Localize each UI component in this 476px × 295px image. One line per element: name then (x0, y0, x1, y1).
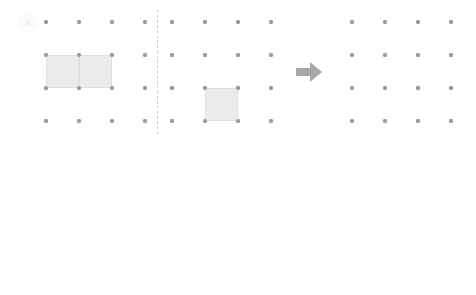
grid-dot (350, 20, 354, 24)
grid-dot (269, 119, 273, 123)
grid-dot (203, 119, 207, 123)
grid-dot (383, 20, 387, 24)
grid-dot (383, 53, 387, 57)
grid-dot (44, 119, 48, 123)
shape-cell (205, 88, 238, 121)
grid-dot (416, 86, 420, 90)
grid-dot (170, 20, 174, 24)
grid-dot (110, 119, 114, 123)
grid-dot (416, 119, 420, 123)
worksheet-canvas: ab (0, 0, 476, 295)
grid-dot (143, 86, 147, 90)
grid-dot (77, 86, 81, 90)
grid-dot (110, 20, 114, 24)
grid-dot (350, 119, 354, 123)
grid-dot (203, 20, 207, 24)
grid-dot (236, 20, 240, 24)
grid-dot (383, 119, 387, 123)
grid-dot (350, 86, 354, 90)
grid-dot (236, 86, 240, 90)
shape-cell (79, 55, 112, 88)
grid-dot (170, 119, 174, 123)
grid-dot (350, 53, 354, 57)
shape-cell (46, 55, 79, 88)
grid-dot (170, 86, 174, 90)
grid-dot (170, 53, 174, 57)
grid-dot (44, 53, 48, 57)
grid-dot (269, 53, 273, 57)
grid-dot (383, 86, 387, 90)
grid-dot (416, 53, 420, 57)
grid-dot (110, 86, 114, 90)
grid-dot (236, 53, 240, 57)
grid-dot (449, 119, 453, 123)
grid-dot (449, 20, 453, 24)
grid-dot (77, 53, 81, 57)
grid-dot (203, 86, 207, 90)
grid-dot (143, 53, 147, 57)
grid-dot (44, 86, 48, 90)
dashed-divider (157, 10, 158, 134)
grid-dot (449, 86, 453, 90)
grid-dot (143, 20, 147, 24)
grid-dot (77, 20, 81, 24)
grid-dot (269, 86, 273, 90)
grid-dot (44, 20, 48, 24)
grid-dot (110, 53, 114, 57)
arrow-right-icon (296, 62, 322, 82)
grid-dot (269, 20, 273, 24)
row-label-badge-a: a (18, 13, 37, 32)
grid-dot (77, 119, 81, 123)
grid-dot (416, 20, 420, 24)
grid-dot (203, 53, 207, 57)
grid-dot (449, 53, 453, 57)
grid-dot (143, 119, 147, 123)
grid-dot (236, 119, 240, 123)
